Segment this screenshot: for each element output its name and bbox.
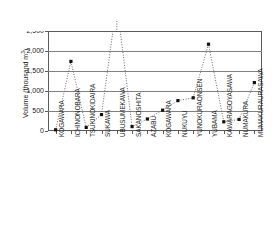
series-connector [132, 119, 147, 127]
data-point-marker [207, 43, 210, 46]
data-point-marker [192, 96, 195, 99]
series-connector [86, 115, 101, 128]
data-point-marker [100, 113, 103, 116]
data-point-marker [253, 81, 256, 84]
series-connector [163, 101, 178, 111]
series-connector [209, 44, 224, 122]
data-point-marker [54, 128, 57, 131]
offscale-clip-mask [0, 0, 279, 31]
chart-container: 12,600 ↑ Volume (thousand m3) 05001,0001… [0, 0, 279, 243]
series-connector [193, 44, 208, 98]
series-connector [224, 119, 239, 121]
series-connector [56, 61, 71, 129]
data-point-marker [176, 99, 179, 102]
data-point-marker [237, 118, 240, 121]
data-point-marker [130, 125, 133, 128]
data-point-marker [146, 117, 149, 120]
data-point-marker [161, 109, 164, 112]
data-point-marker [222, 120, 225, 123]
series-connector [71, 61, 86, 127]
series-connector [239, 83, 254, 120]
series-connector [178, 98, 193, 101]
data-series [0, 0, 279, 243]
series-connector [147, 110, 162, 119]
data-point-marker [85, 126, 88, 129]
data-point-marker [69, 60, 72, 63]
